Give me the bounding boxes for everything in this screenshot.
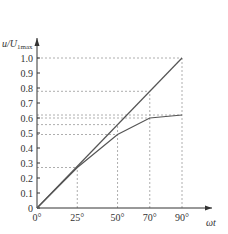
y-tick-label: 0.9	[21, 68, 34, 79]
x-tick-label: 70°	[143, 212, 157, 223]
x-axis-label: ωt	[206, 217, 216, 228]
y-tick-label: 0.7	[21, 98, 34, 109]
y-tick-label: 0.1	[21, 188, 34, 199]
series-line-limited	[37, 115, 182, 208]
x-tick-label: 90°	[175, 212, 189, 223]
y-tick-label: 0.4	[21, 143, 34, 154]
y-tick-label: 0.8	[21, 83, 34, 94]
y-axis-label: u/U1max	[2, 38, 33, 51]
y-tick-label: 0.6	[21, 113, 34, 124]
x-tick-label: 0°	[33, 212, 42, 223]
y-tick-label: 0.3	[21, 158, 34, 169]
x-tick-label: 25°	[70, 212, 84, 223]
y-tick-label: 1.0	[21, 53, 34, 64]
y-tick-label: 0.2	[21, 173, 34, 184]
x-axis-arrow-icon	[205, 206, 212, 211]
x-tick-label: 50°	[111, 212, 125, 223]
y-axis-arrow-icon	[35, 38, 40, 46]
y-tick-label: 0.5	[21, 128, 34, 139]
x-ticks: 0°25°50°70°90°	[33, 212, 190, 223]
chart: 00.10.20.30.40.50.60.70.80.91.0 0°25°50°…	[0, 0, 228, 234]
series	[37, 58, 182, 208]
